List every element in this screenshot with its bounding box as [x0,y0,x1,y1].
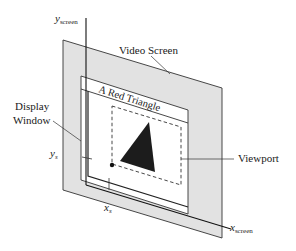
display-window-label-line2: Window [13,114,50,126]
x-screen-label: xscreen [229,221,253,235]
video-screen-label: Video Screen [119,44,178,56]
viewport-origin-dot [110,163,114,167]
display-window-label-line1: Display [15,100,50,112]
diagram-canvas: A Red Triangle yscreen Video Screen Disp… [0,0,296,251]
y-screen-label: yscreen [54,12,78,26]
ys-label: ys [49,147,58,161]
viewport-label: Viewport [238,152,279,164]
